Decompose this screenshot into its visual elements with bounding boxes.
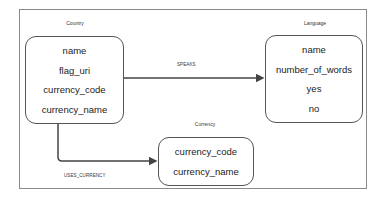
country-title: Country [55,20,95,26]
speaks-label: SPEAKS [177,62,196,67]
currency-entity: currency_code currency_name [158,137,254,186]
country-attr-name: name [63,45,87,56]
country-attr-flag-uri: flag_uri [59,65,90,76]
language-attr-name: name [302,44,326,55]
currency-attr-currency-name: currency_name [173,166,238,177]
country-entity: name flag_uri currency_code currency_nam… [25,36,124,124]
country-attr-currency-code: currency_code [43,84,105,95]
language-attr-yes: yes [307,83,322,94]
language-entity: name number_of_words yes no [265,35,363,123]
language-title: Language [293,20,337,26]
country-attr-currency-name: currency_name [42,104,107,115]
uses-currency-arrow [58,124,156,161]
uses-currency-label: USES_CURRENCY [64,173,106,178]
currency-title: Currency [185,121,225,127]
language-attr-number-of-words: number_of_words [276,64,352,75]
currency-attr-currency-code: currency_code [175,146,237,157]
language-attr-no: no [309,103,320,114]
